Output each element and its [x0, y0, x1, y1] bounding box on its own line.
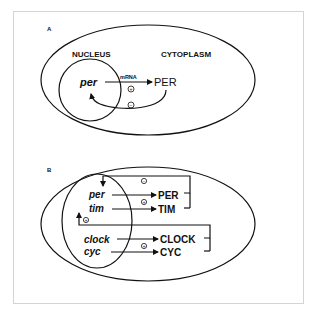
per-gene: per: [88, 189, 106, 200]
mrna-label: mRNA: [120, 74, 137, 80]
activation-sign: +: [130, 86, 133, 92]
cell-outline: [41, 25, 255, 135]
per-protein: PER: [158, 190, 179, 201]
clock-protein: CLOCK: [160, 234, 196, 245]
per-tim-activation-sign: +: [143, 200, 146, 205]
per-protein: PER: [154, 76, 177, 88]
tim-protein: TIM: [158, 204, 175, 215]
repression-sign: −: [130, 102, 133, 108]
panel-b-label: B: [47, 167, 52, 173]
cyc-protein: CYC: [160, 247, 181, 258]
cytoplasm-label: CYTOPLASM: [161, 50, 211, 59]
panel-a: A NUCLEUS CYTOPLASM per PER mRNA + −: [41, 25, 255, 135]
cell-outline: [41, 167, 255, 281]
panel-a-label: A: [47, 26, 52, 32]
circadian-clock-diagram: A NUCLEUS CYTOPLASM per PER mRNA + − B p…: [0, 0, 313, 321]
per-tim-repression-sign: −: [143, 179, 146, 184]
nucleus-outline: [59, 59, 121, 121]
per-gene: per: [79, 76, 98, 88]
panel-b: B per tim clock cyc PER TIM CLOCK CYC + …: [41, 167, 255, 281]
feedback-arrow: [91, 90, 166, 108]
clock-gene: clock: [84, 234, 110, 245]
nucleus-label: NUCLEUS: [72, 50, 111, 59]
clock-cyc-feedback-sign: +: [85, 218, 88, 223]
cyc-gene: cyc: [84, 246, 101, 257]
clock-cyc-activation-sign: +: [143, 244, 146, 249]
tim-gene: tim: [89, 203, 104, 214]
